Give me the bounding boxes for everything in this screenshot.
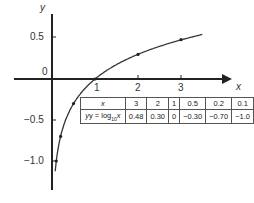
x-tick-2: 2 [135, 82, 141, 93]
table-row-y: yy = log10x 0.48 0.30 0 −0.30 −0.70 −1.0 [81, 110, 254, 124]
table-header-x: x [81, 98, 126, 110]
data-point [72, 102, 75, 105]
data-point [55, 159, 58, 162]
y-tick-minus-0.5: −0.5 [24, 114, 44, 125]
table-row-x: x 3 2 1 0.5 0.2 0.1 [81, 98, 254, 110]
data-point [93, 77, 96, 80]
y-axis-label: y [40, 2, 45, 13]
y-tick-0: 0 [42, 66, 48, 77]
x-axis-label: x [236, 81, 241, 92]
y-tick-minus-1.0: −1.0 [24, 155, 44, 166]
x-tick-1: 1 [94, 82, 100, 93]
value-table: x 3 2 1 0.5 0.2 0.1 yy = log10x 0.48 0.3… [80, 97, 254, 124]
data-point [136, 53, 139, 56]
data-point [179, 38, 182, 41]
table-header-y: yy = log10x [81, 110, 126, 124]
data-point [59, 135, 62, 138]
y-tick-0.5: 0.5 [30, 31, 44, 42]
x-axis-arrow-icon [222, 74, 232, 84]
x-tick-3: 3 [178, 82, 184, 93]
